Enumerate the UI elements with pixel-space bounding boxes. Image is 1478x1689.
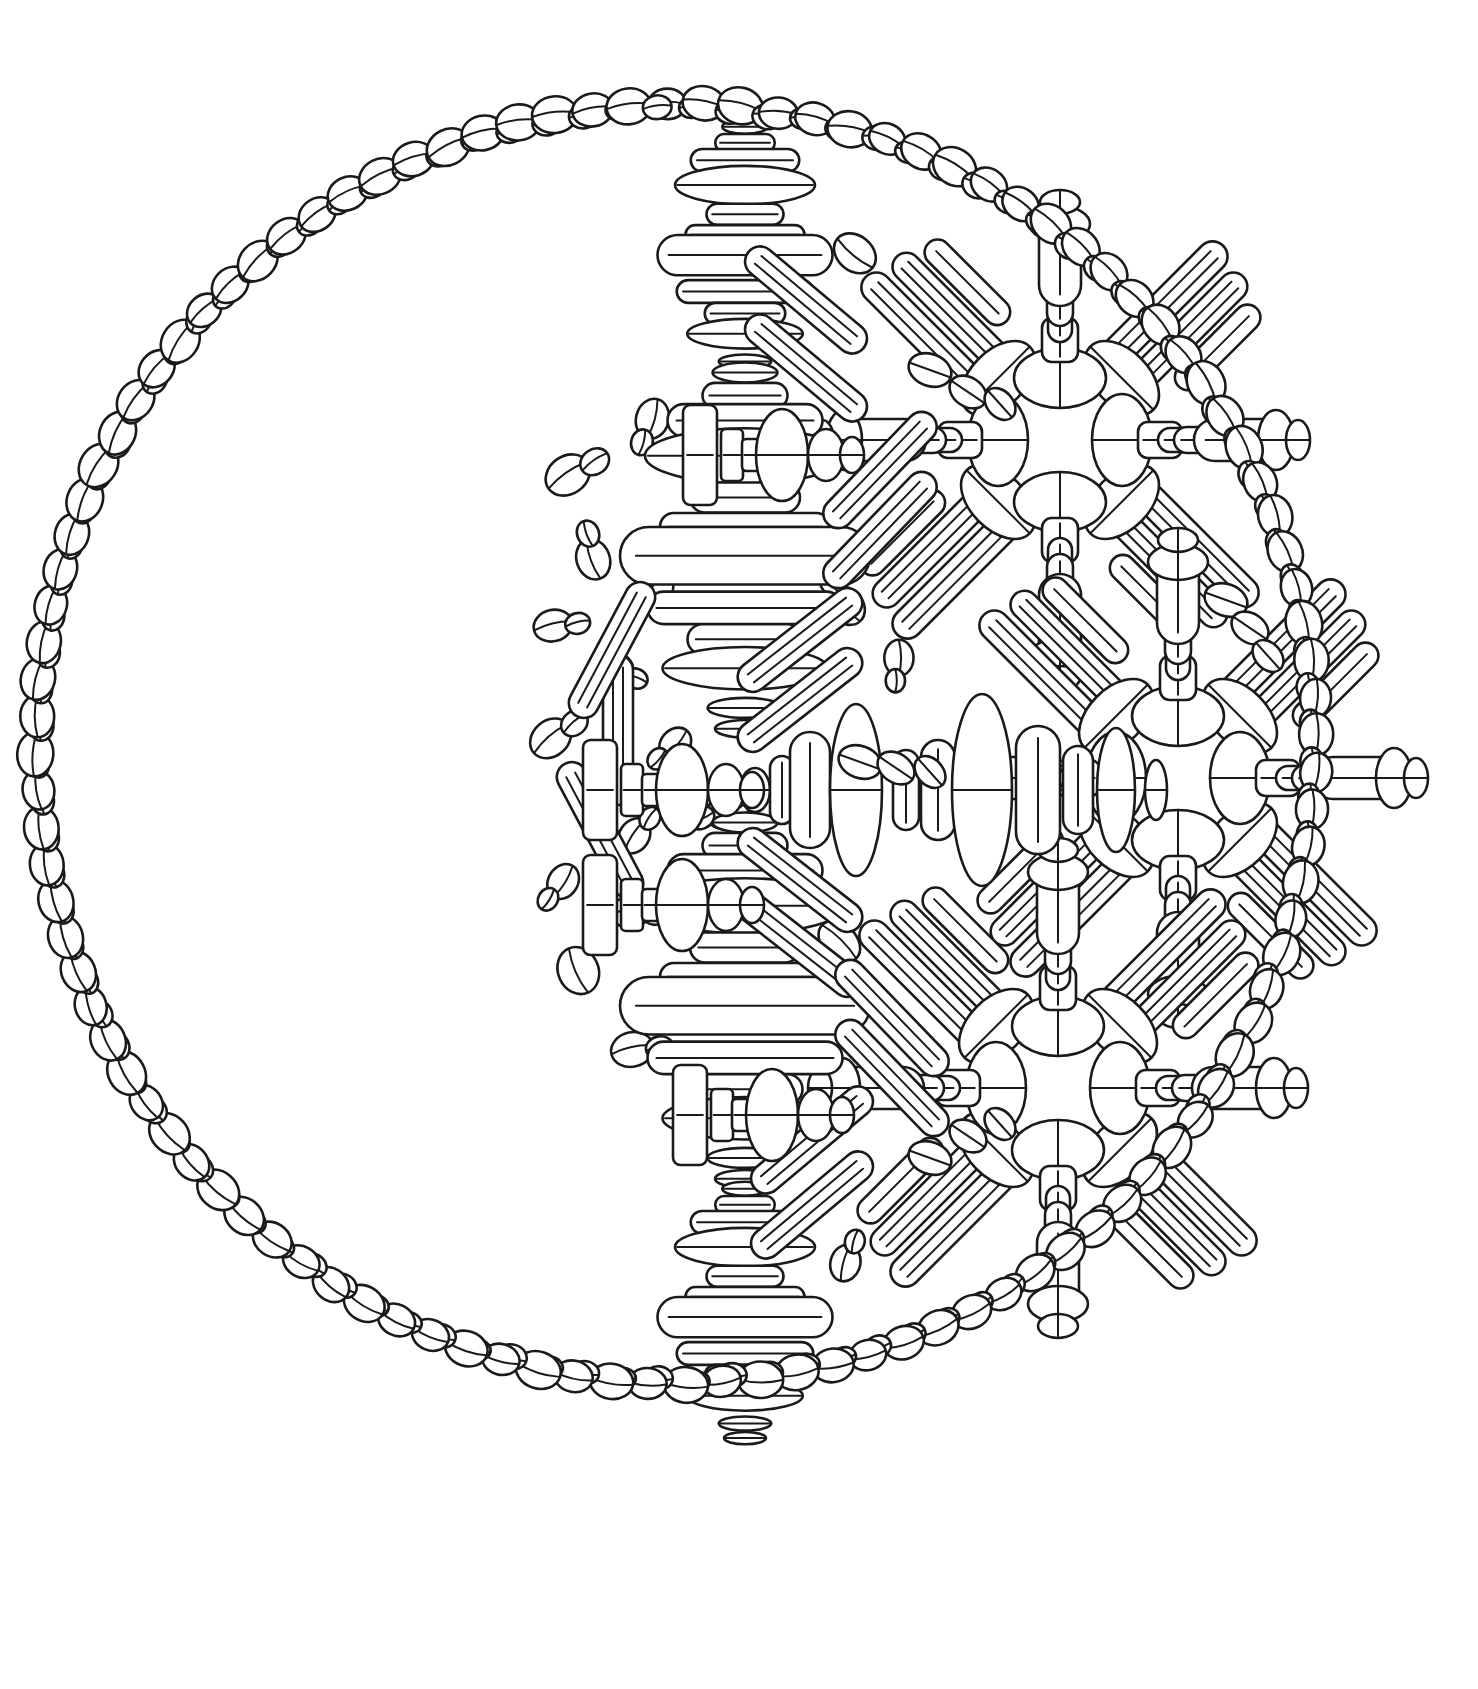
spindle-disc [790,732,830,848]
spindle-oval [1097,728,1135,852]
spool-slab [583,855,617,955]
spool-knob [708,764,744,816]
spool-slab [583,740,617,840]
spool-knob [740,887,764,923]
spool-knob [840,437,864,473]
spindle-disc [1016,726,1060,854]
totem-oval [719,1417,772,1431]
artboard [0,0,1478,1689]
arm-knob [1158,528,1198,552]
coffee-bean-mandala-drawing [0,0,1478,1689]
spool-neck [721,429,743,481]
spool-slab [673,1065,707,1165]
spool-knob [830,1097,854,1133]
spindle-oval [952,694,1012,886]
spool-knob [740,772,764,808]
arm-knob [1284,1068,1308,1108]
totem-disc [658,1297,833,1337]
totem-oval [675,166,815,205]
spool-neck [711,1089,733,1141]
totem-oval [724,1432,766,1444]
arm-knob [1404,758,1428,798]
totem-oval [713,363,778,383]
spool-neck [621,764,643,816]
bean-small [886,669,905,692]
totem-disc [707,1266,784,1287]
spool-knob [798,1089,834,1141]
spool-slab [683,405,717,505]
spindle-oval [1145,760,1167,820]
totem-disc [707,204,784,225]
arm-knob [1038,1314,1078,1338]
spool-head [656,859,708,951]
spool-head [756,409,808,501]
spool-neck [621,879,643,931]
arm-knob [1286,420,1310,460]
spool-head [656,744,708,836]
spool-head [746,1069,798,1161]
spindle-oval [830,704,882,876]
spool-knob [708,879,744,931]
spindle-disc [1063,746,1093,834]
spool-knob [808,429,844,481]
